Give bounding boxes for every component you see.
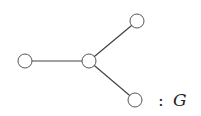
edge-center-top-right	[89, 21, 137, 61]
edges	[25, 21, 137, 100]
node-bottom-right	[128, 93, 142, 107]
edge-center-bottom-right	[89, 61, 135, 100]
graph-label-name: G	[173, 90, 187, 110]
node-left	[18, 54, 32, 68]
graph-diagram: : G	[0, 0, 201, 116]
graph-label-colon: :	[158, 90, 164, 110]
node-top-right	[130, 14, 144, 28]
node-center	[82, 54, 96, 68]
